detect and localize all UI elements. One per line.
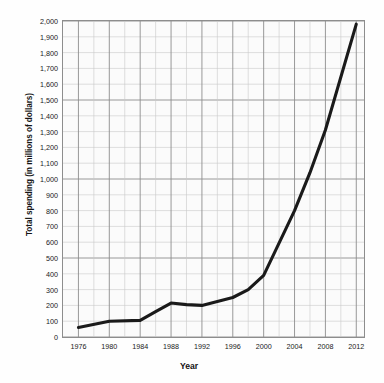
- y-tick-label: 200: [2, 301, 58, 310]
- y-tick-label: 1,200: [2, 143, 58, 152]
- plot-svg: [63, 21, 364, 337]
- y-tick-label: 700: [2, 222, 58, 231]
- x-axis-tick-labels: 1976198019841988199219962000200420082012: [62, 342, 365, 356]
- x-tick-label: 1988: [163, 342, 179, 351]
- y-tick-label: 300: [2, 285, 58, 294]
- line-chart: Total spending (in millions of dollars) …: [0, 0, 384, 383]
- x-tick-label: 1992: [194, 342, 210, 351]
- y-tick-label: 500: [2, 254, 58, 263]
- y-tick-label: 1,500: [2, 96, 58, 105]
- plot-area: [62, 20, 365, 338]
- x-tick-label: 1980: [101, 342, 117, 351]
- y-tick-label: 900: [2, 190, 58, 199]
- y-tick-label: 1,300: [2, 127, 58, 136]
- y-tick-label: 1,700: [2, 64, 58, 73]
- y-tick-label: 800: [2, 206, 58, 215]
- y-tick-label: 0: [2, 333, 58, 342]
- x-tick-label: 2008: [317, 342, 333, 351]
- y-tick-label: 100: [2, 317, 58, 326]
- y-tick-label: 1,100: [2, 159, 58, 168]
- x-tick-label: 1984: [132, 342, 148, 351]
- x-tick-label: 2000: [256, 342, 272, 351]
- x-tick-label: 1976: [70, 342, 86, 351]
- x-axis-title: Year: [180, 361, 198, 371]
- x-tick-label: 2012: [348, 342, 364, 351]
- y-axis-tick-labels: 01002003004005006007008009001,0001,1001,…: [0, 20, 58, 338]
- y-tick-label: 1,400: [2, 111, 58, 120]
- y-tick-label: 1,900: [2, 32, 58, 41]
- y-tick-label: 1,800: [2, 48, 58, 57]
- y-tick-label: 1,000: [2, 175, 58, 184]
- x-tick-label: 1996: [225, 342, 241, 351]
- y-tick-label: 2,000: [2, 17, 58, 26]
- y-tick-label: 400: [2, 269, 58, 278]
- y-tick-label: 1,600: [2, 80, 58, 89]
- x-tick-label: 2004: [287, 342, 303, 351]
- y-tick-label: 600: [2, 238, 58, 247]
